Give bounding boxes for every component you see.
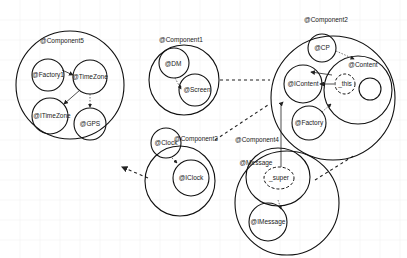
node-factory1[interactable]: @Factory1: [32, 59, 64, 91]
component5[interactable]: @Component5 @Factory1 @TimeZone @ITimeZo…: [16, 31, 124, 140]
svg-text:@Content: @Content: [348, 61, 378, 68]
component4[interactable]: @Component4 @Message _super @IMessage: [235, 136, 339, 255]
component5-label: @Component5: [40, 37, 84, 45]
svg-text:@Screen: @Screen: [183, 86, 211, 93]
node-content[interactable]: @Content: [324, 56, 392, 124]
svg-text:@ITimeZone: @ITimeZone: [33, 112, 71, 119]
node-cp[interactable]: @CP: [308, 34, 336, 62]
node-dm[interactable]: @DM: [159, 48, 189, 78]
svg-text:@CP: @CP: [314, 44, 330, 51]
component2[interactable]: @Component2 @CP @Content _this @IContent…: [271, 16, 395, 160]
component4-label: @Component4: [235, 136, 279, 144]
svg-text:_super: _super: [268, 174, 290, 182]
component1[interactable]: @Component1 @DM @Screen: [149, 36, 219, 115]
svg-text:@IContent: @IContent: [287, 80, 318, 87]
svg-text:@Clock: @Clock: [155, 139, 179, 146]
node-super[interactable]: _super: [264, 167, 294, 189]
edge-cp-content: [336, 51, 354, 59]
node-this[interactable]: _this: [335, 74, 355, 94]
svg-text:@IMessage: @IMessage: [251, 218, 286, 226]
svg-text:@TimeZone: @TimeZone: [72, 73, 108, 80]
edge-timezone-itimezone: [64, 90, 80, 104]
svg-text:@Factory1: @Factory1: [32, 71, 64, 79]
node-icontent[interactable]: @IContent: [284, 65, 322, 103]
diagram-canvas: @Component5 @Factory1 @TimeZone @ITimeZo…: [0, 0, 407, 258]
svg-text:@IClock: @IClock: [179, 174, 204, 181]
component4-boundary: [235, 151, 339, 255]
svg-text:@Message: @Message: [240, 159, 273, 167]
svg-text:@Factory: @Factory: [295, 119, 324, 127]
component3[interactable]: @Component3 @Clock @IClock: [145, 128, 218, 216]
svg-text:_this: _this: [337, 80, 352, 88]
svg-text:@DM: @DM: [165, 60, 182, 67]
node-iclock[interactable]: @IClock: [173, 160, 209, 196]
node-clock[interactable]: @Clock: [151, 128, 181, 158]
svg-text:@GPS: @GPS: [80, 120, 101, 127]
node-factory[interactable]: @Factory: [292, 106, 326, 140]
component1-label: @Component1: [159, 36, 203, 44]
node-screen[interactable]: @Screen: [179, 74, 211, 106]
node-timezone[interactable]: @TimeZone: [72, 60, 108, 94]
edge-c3-to-c5: [122, 167, 148, 178]
component5-boundary: [16, 31, 124, 139]
content-inner-node[interactable]: [359, 78, 381, 100]
edge-clock-iclock: [172, 158, 177, 163]
node-imessage[interactable]: @IMessage: [249, 203, 287, 241]
component2-label: @Component2: [304, 16, 348, 24]
